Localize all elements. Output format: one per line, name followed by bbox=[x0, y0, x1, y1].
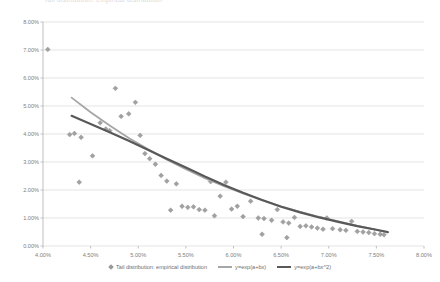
legend-line-icon bbox=[218, 266, 232, 268]
scatter-point bbox=[153, 162, 158, 167]
scatter-point bbox=[191, 204, 196, 209]
scatter-point bbox=[77, 180, 82, 185]
scatter-point bbox=[197, 207, 202, 212]
scatter-point bbox=[349, 219, 354, 224]
scatter-point bbox=[168, 208, 173, 213]
y-axis-tick-label: 5.00% bbox=[23, 103, 39, 109]
scatter-point bbox=[248, 199, 253, 204]
x-axis-tick-label: 5.00% bbox=[130, 252, 146, 258]
x-axis-tick-label: 4.50% bbox=[83, 252, 99, 258]
scatter-point bbox=[113, 86, 118, 91]
x-axis-tick-label: 4.00% bbox=[35, 252, 51, 258]
chart-legend: Tail distribution: empirical distributio… bbox=[0, 264, 440, 270]
fit-curve-line bbox=[72, 116, 388, 232]
scatter-point bbox=[235, 204, 240, 209]
scatter-point bbox=[256, 216, 261, 221]
chart-plot-area: 0.00%1.00%2.00%3.00%4.00%5.00%6.00%7.00%… bbox=[0, 0, 440, 282]
legend-label: Tail distribution: empirical distributio… bbox=[116, 264, 207, 270]
y-axis-tick-label: 1.00% bbox=[23, 215, 39, 221]
scatter-point bbox=[275, 207, 280, 212]
scatter-point bbox=[286, 221, 291, 226]
scatter-point bbox=[143, 151, 148, 156]
x-axis-tick-label: 6.50% bbox=[273, 252, 289, 258]
scatter-point bbox=[223, 180, 228, 185]
scatter-point bbox=[343, 228, 348, 233]
scatter-point bbox=[366, 230, 371, 235]
x-axis-tick-label: 6.00% bbox=[226, 252, 242, 258]
scatter-series bbox=[45, 47, 386, 240]
legend-label: y=exp(a+bx^2) bbox=[294, 264, 331, 270]
x-axis-tick-label: 8.00% bbox=[416, 252, 432, 258]
scatter-point bbox=[133, 100, 138, 105]
x-axis-tick-label: 7.00% bbox=[321, 252, 337, 258]
legend-item[interactable]: Tail distribution: empirical distributio… bbox=[109, 264, 207, 270]
scatter-point bbox=[229, 207, 234, 212]
scatter-point bbox=[79, 135, 84, 140]
scatter-point bbox=[126, 111, 131, 116]
scatter-point bbox=[45, 47, 50, 52]
scatter-point bbox=[72, 131, 77, 136]
scatter-point bbox=[164, 179, 169, 184]
scatter-point bbox=[309, 225, 314, 230]
chart-container: Tail distribution: empirical distributio… bbox=[0, 0, 440, 282]
scatter-point bbox=[67, 132, 72, 137]
legend-line-icon bbox=[277, 266, 291, 268]
y-axis-tick-label: 3.00% bbox=[23, 159, 39, 165]
scatter-point bbox=[260, 232, 265, 237]
scatter-point bbox=[338, 227, 343, 232]
x-axis-tick-label: 7.50% bbox=[368, 252, 384, 258]
scatter-point bbox=[330, 226, 335, 231]
scatter-point bbox=[292, 215, 297, 220]
scatter-point bbox=[284, 235, 289, 240]
legend-marker-icon bbox=[108, 264, 114, 270]
scatter-point bbox=[147, 156, 152, 161]
scatter-point bbox=[321, 227, 326, 232]
scatter-point bbox=[298, 224, 303, 229]
x-axis-tick-label: 5.50% bbox=[178, 252, 194, 258]
scatter-point bbox=[372, 231, 377, 236]
legend-item[interactable]: y=exp(a+bx^2) bbox=[277, 264, 331, 270]
scatter-point bbox=[361, 230, 366, 235]
legend-label: y=exp(a+bx) bbox=[235, 264, 266, 270]
scatter-point bbox=[119, 114, 124, 119]
scatter-point bbox=[90, 153, 95, 158]
scatter-point bbox=[382, 232, 387, 237]
scatter-point bbox=[269, 218, 274, 223]
y-axis-tick-label: 6.00% bbox=[23, 75, 39, 81]
y-axis-tick-label: 8.00% bbox=[23, 19, 39, 25]
scatter-point bbox=[159, 173, 164, 178]
y-axis-tick-label: 4.00% bbox=[23, 131, 39, 137]
scatter-point bbox=[315, 226, 320, 231]
scatter-point bbox=[203, 208, 208, 213]
y-axis-tick-label: 0.00% bbox=[23, 243, 39, 249]
scatter-point bbox=[180, 204, 185, 209]
scatter-point bbox=[218, 194, 223, 199]
scatter-point bbox=[303, 223, 308, 228]
fit-curve-line bbox=[72, 98, 388, 233]
scatter-point bbox=[355, 229, 360, 234]
legend-item[interactable]: y=exp(a+bx) bbox=[218, 264, 266, 270]
scatter-point bbox=[174, 181, 179, 186]
scatter-point bbox=[262, 216, 267, 221]
scatter-point bbox=[281, 220, 286, 225]
y-axis-tick-label: 7.00% bbox=[23, 47, 39, 53]
y-axis-tick-label: 2.00% bbox=[23, 187, 39, 193]
scatter-point bbox=[185, 205, 190, 210]
scatter-point bbox=[212, 213, 217, 218]
